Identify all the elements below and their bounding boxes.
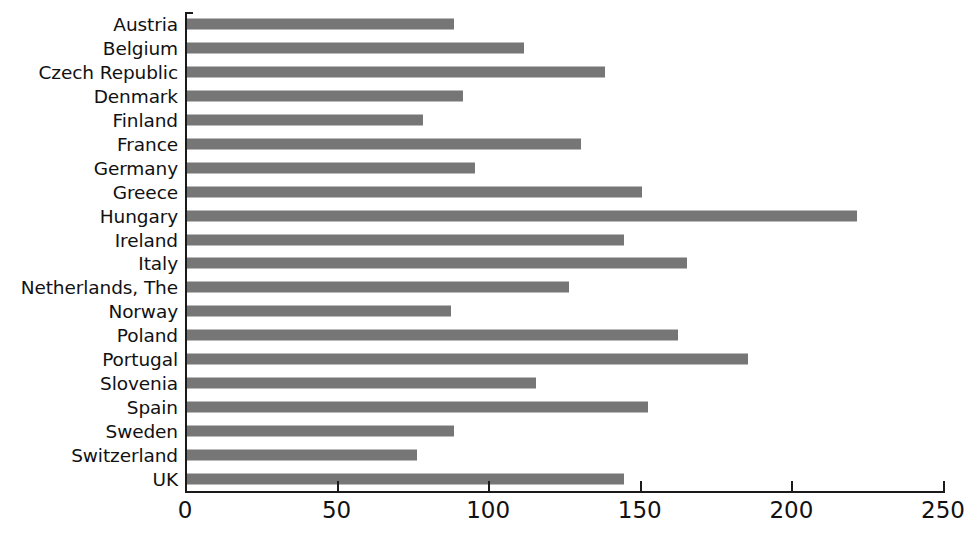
category-label: Germany	[94, 157, 178, 178]
bar	[187, 474, 624, 485]
x-axis-tick-label: 200	[769, 497, 813, 523]
category-label: Italy	[138, 253, 178, 274]
bar	[187, 18, 454, 29]
category-label: Netherlands, The	[21, 277, 178, 298]
bar	[187, 186, 642, 197]
x-axis-tick-label: 0	[178, 497, 193, 523]
bar-row: Spain	[0, 395, 972, 419]
bar-row: UK	[0, 467, 972, 491]
x-axis-tick	[337, 481, 339, 493]
x-axis-tick-label: 250	[921, 497, 965, 523]
bar-row: Netherlands, The	[0, 275, 972, 299]
bar-row: Italy	[0, 252, 972, 276]
category-label: Denmark	[94, 85, 178, 106]
bar-row: Portugal	[0, 347, 972, 371]
bar	[187, 210, 857, 221]
x-axis-tick-label: 50	[322, 497, 351, 523]
bar	[187, 42, 524, 53]
bar	[187, 258, 687, 269]
bar-rows: AustriaBelgiumCzech RepublicDenmarkFinla…	[0, 0, 972, 493]
bar-row: Finland	[0, 108, 972, 132]
bar	[187, 66, 605, 77]
bar	[187, 306, 451, 317]
bar-row: Slovenia	[0, 371, 972, 395]
bar	[187, 330, 678, 341]
bar-row: Hungary	[0, 204, 972, 228]
bar	[187, 90, 463, 101]
category-label: Slovenia	[100, 373, 178, 394]
category-label: Norway	[108, 301, 178, 322]
x-axis-tick-label: 100	[466, 497, 510, 523]
bar-row: Ireland	[0, 228, 972, 252]
bar	[187, 354, 748, 365]
category-label: Finland	[113, 109, 178, 130]
bar-row: Germany	[0, 156, 972, 180]
bar	[187, 234, 624, 245]
bar	[187, 426, 454, 437]
x-axis-tick	[488, 481, 490, 493]
category-label: France	[117, 133, 178, 154]
x-axis-tick	[943, 481, 945, 493]
category-label: Portugal	[102, 349, 178, 370]
x-axis-tick	[791, 481, 793, 493]
bar-row: Greece	[0, 180, 972, 204]
category-label: Poland	[117, 325, 178, 346]
bar-row: Sweden	[0, 419, 972, 443]
bar	[187, 378, 536, 389]
x-axis-tick	[640, 481, 642, 493]
bar-row: Switzerland	[0, 443, 972, 467]
category-label: Czech Republic	[39, 61, 178, 82]
bar-row: Norway	[0, 299, 972, 323]
bar	[187, 450, 417, 461]
bar-chart: AustriaBelgiumCzech RepublicDenmarkFinla…	[0, 0, 972, 535]
x-axis-tick-label: 150	[618, 497, 662, 523]
category-label: Greece	[113, 181, 178, 202]
category-label: Ireland	[115, 229, 178, 250]
bar-row: Denmark	[0, 84, 972, 108]
bar-row: Austria	[0, 12, 972, 36]
bar	[187, 114, 423, 125]
x-axis-tick	[185, 481, 187, 493]
bar-row: France	[0, 132, 972, 156]
bar	[187, 402, 648, 413]
category-label: Switzerland	[71, 445, 178, 466]
bar-row: Belgium	[0, 36, 972, 60]
category-label: Hungary	[100, 205, 178, 226]
category-label: Belgium	[103, 37, 178, 58]
bar	[187, 282, 569, 293]
bar	[187, 138, 581, 149]
category-label: Spain	[127, 397, 178, 418]
bar-row: Poland	[0, 323, 972, 347]
bar-row: Czech Republic	[0, 60, 972, 84]
category-label: Austria	[113, 13, 178, 34]
category-label: Sweden	[105, 421, 178, 442]
bar	[187, 162, 475, 173]
category-label: UK	[153, 469, 178, 490]
